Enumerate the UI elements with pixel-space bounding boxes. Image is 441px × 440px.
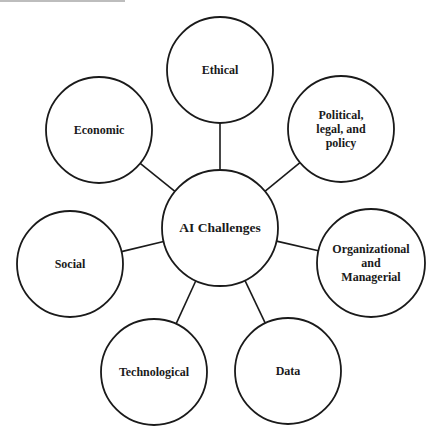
node-label-economic: Economic bbox=[74, 123, 125, 137]
connector-data bbox=[245, 280, 265, 323]
node-label-ethical: Ethical bbox=[202, 63, 239, 77]
node-label-technological: Technological bbox=[119, 365, 189, 379]
node-label-data: Data bbox=[276, 364, 301, 378]
node-label-social: Social bbox=[55, 257, 86, 271]
node-label-political: Political, legal, and policy bbox=[316, 108, 365, 150]
node-label-center: AI Challenges bbox=[179, 221, 260, 235]
connector-political bbox=[265, 163, 300, 192]
connector-technological bbox=[176, 281, 196, 324]
node-label-organizational: Organizational and Managerial bbox=[332, 242, 409, 284]
connector-organizational bbox=[277, 241, 319, 251]
connector-economic bbox=[140, 163, 175, 191]
connector-social bbox=[122, 242, 164, 252]
